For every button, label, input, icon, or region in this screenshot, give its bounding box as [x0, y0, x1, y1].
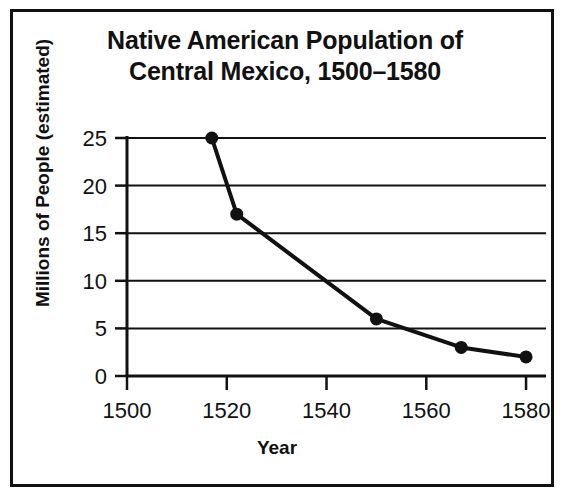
y-tick-label-20: 20 [83, 174, 107, 199]
data-point-1567-3 [455, 341, 468, 354]
y-axis-tick-labels: 0510152025 [83, 126, 107, 389]
y-tick-label-5: 5 [95, 316, 107, 341]
x-axis-ticks-group [127, 376, 526, 390]
x-tick-label-1500: 1500 [103, 398, 152, 423]
gridlines-group [127, 138, 546, 328]
y-axis-ticks-group [115, 138, 127, 376]
y-tick-label-25: 25 [83, 126, 107, 151]
figure-frame: Native American Population of Central Me… [10, 9, 554, 487]
x-tick-label-1560: 1560 [402, 398, 451, 423]
x-tick-label-1580: 1580 [502, 398, 551, 423]
data-point-1550-6 [370, 312, 383, 325]
y-tick-label-15: 15 [83, 221, 107, 246]
y-tick-label-0: 0 [95, 364, 107, 389]
x-axis-title: Year [117, 437, 437, 459]
data-point-1517-25 [205, 132, 218, 145]
x-tick-label-1540: 1540 [302, 398, 351, 423]
population-line-series [212, 138, 526, 357]
data-point-1522-17 [230, 208, 243, 221]
x-axis-tick-labels: 15001520154015601580 [103, 398, 551, 423]
line-chart-plot: 0510152025 15001520154015601580 [13, 12, 557, 490]
data-point-1580-2 [520, 350, 533, 363]
x-tick-label-1520: 1520 [202, 398, 251, 423]
y-tick-label-10: 10 [83, 269, 107, 294]
